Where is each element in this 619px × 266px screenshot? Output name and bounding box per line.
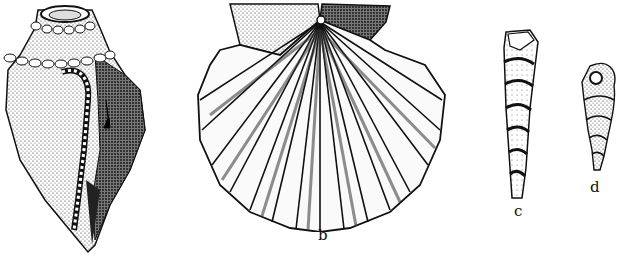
scallop-drawing bbox=[190, 0, 450, 232]
figure-b-scallop bbox=[190, 0, 450, 232]
figure-label-b: b bbox=[318, 226, 328, 244]
figure-label-d: d bbox=[590, 178, 600, 196]
turritella-drawing bbox=[500, 28, 540, 200]
figure-a-gastropod bbox=[0, 0, 150, 258]
knobbed-gastropod-drawing bbox=[0, 0, 150, 258]
figure-label-c: c bbox=[514, 202, 522, 220]
figure-d-small-gastropod bbox=[578, 60, 618, 172]
small-gastropod-drawing bbox=[578, 60, 618, 172]
figure-c-turritella bbox=[500, 28, 540, 200]
